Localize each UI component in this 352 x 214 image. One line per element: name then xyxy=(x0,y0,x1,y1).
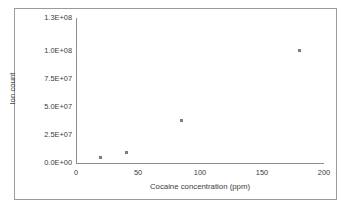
y-axis-line xyxy=(76,18,77,164)
x-axis-tick-text: 200 xyxy=(304,168,344,177)
x-axis-tick-label: 150 xyxy=(242,168,282,178)
y-axis-tick-label: 0.0E+00 xyxy=(6,159,72,167)
y-axis-title: Ion count xyxy=(8,59,17,119)
x-axis-tick-text: 50 xyxy=(118,168,158,177)
y-axis-tick-label: 1.3E+08 xyxy=(6,14,72,22)
y-axis-tick-text: 5.0E+07 xyxy=(10,103,72,111)
x-axis-line xyxy=(76,163,324,164)
y-axis-tick-text: 7.5E+07 xyxy=(10,75,72,83)
y-axis-tick-label: 2.5E+07 xyxy=(6,131,72,139)
x-axis-tick-label: 100 xyxy=(180,168,220,178)
x-axis-title: Cocaine concentration (ppm) xyxy=(76,182,324,191)
y-axis-tick-text: 1.0E+08 xyxy=(10,47,72,55)
data-point xyxy=(180,119,183,122)
x-axis-tick-text: 0 xyxy=(56,168,96,177)
y-axis-tick-text: 1.3E+08 xyxy=(10,14,72,22)
data-point xyxy=(298,49,301,52)
x-axis-tick-label: 50 xyxy=(118,168,158,178)
x-axis-tick-label: 200 xyxy=(304,168,344,178)
scatter-chart: 0.0E+002.5E+075.0E+077.5E+071.0E+081.3E+… xyxy=(0,0,352,214)
y-axis-tick-label: 1.0E+08 xyxy=(6,47,72,55)
x-axis-tick-text: 150 xyxy=(242,168,282,177)
y-axis-tick-text: 0.0E+00 xyxy=(10,159,72,167)
data-point xyxy=(125,151,128,154)
x-axis-tick-label: 0 xyxy=(56,168,96,178)
y-axis-tick-text: 2.5E+07 xyxy=(10,131,72,139)
x-axis-tick-text: 100 xyxy=(180,168,220,177)
data-point xyxy=(99,156,102,159)
